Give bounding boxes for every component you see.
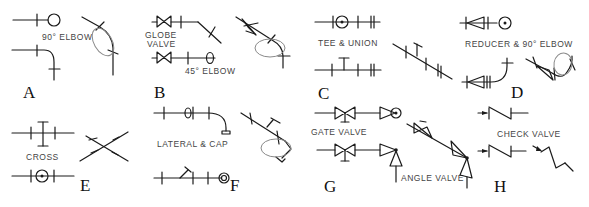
elbow-90-plan-symbol xyxy=(12,45,60,80)
reducer-elbow-isometric-symbol xyxy=(526,52,575,80)
tee-union-outlet-up-symbol xyxy=(315,16,380,28)
reducer-elbow-up-symbol xyxy=(460,17,511,29)
label-lateral-cap: LATERAL & CAP xyxy=(157,139,228,149)
check-valve-isometric-symbol xyxy=(533,146,573,171)
panel-letter-g: G xyxy=(324,177,336,196)
globe-valve-45-elbow-turned-symbol xyxy=(152,52,215,64)
panel-f: LATERAL & CAP F xyxy=(154,107,291,195)
lateral-cap-plan-symbol xyxy=(154,107,230,134)
panel-h: CHECK VALVE H xyxy=(478,107,573,196)
label-tee-union: TEE & UNION xyxy=(318,38,378,48)
panel-d: REDUCER & 90° ELBOW D xyxy=(460,17,575,102)
panel-letter-b: B xyxy=(154,83,165,102)
globe-valve-isometric-symbol xyxy=(236,17,290,68)
label-reducer-elbow: REDUCER & 90° ELBOW xyxy=(465,39,573,49)
panel-letter-f: F xyxy=(230,176,239,195)
gate-valve-symbol xyxy=(315,107,401,122)
elbow-90-turned-up-symbol xyxy=(13,14,60,26)
panel-letter-h: H xyxy=(494,177,506,196)
label-check-valve: CHECK VALVE xyxy=(497,129,561,139)
panel-b: GLOBE VALVE 45° ELBOW B xyxy=(145,16,290,102)
elbow-90-isometric-symbol xyxy=(82,17,118,75)
cross-plan-symbol xyxy=(12,122,74,146)
lateral-cap-isometric-symbol xyxy=(241,113,291,162)
label-angle-valve: ANGLE VALVE xyxy=(401,173,464,183)
cross-outlet-up-symbol xyxy=(12,170,74,182)
panel-g: GATE VALVE ANGLE VALVE G xyxy=(311,107,472,196)
check-valve-lower-symbol xyxy=(478,145,526,157)
check-valve-upper-symbol xyxy=(478,107,528,119)
panel-c: TEE & UNION C xyxy=(315,16,452,103)
label-valve: VALVE xyxy=(147,39,176,49)
cross-isometric-symbol xyxy=(80,132,128,161)
panel-letter-a: A xyxy=(23,83,36,102)
panel-letter-d: D xyxy=(511,83,523,102)
reducer-elbow-plan-symbol xyxy=(462,58,513,88)
label-cross: CROSS xyxy=(26,152,59,162)
panel-e: CROSS E xyxy=(12,122,128,195)
lateral-cap-outlet-symbol xyxy=(154,167,229,184)
tee-union-isometric-symbol xyxy=(393,43,452,79)
panel-letter-c: C xyxy=(318,84,329,103)
tee-union-plan-symbol xyxy=(315,58,381,76)
label-gate-valve: GATE VALVE xyxy=(311,127,367,137)
symbols-diagram: 90° ELBOW A GLOBE VALVE xyxy=(0,0,589,207)
label-45-elbow: 45° ELBOW xyxy=(185,66,235,76)
panel-letter-e: E xyxy=(80,176,90,195)
panel-a: 90° ELBOW A xyxy=(12,14,118,102)
label-90-elbow: 90° ELBOW xyxy=(42,32,92,42)
